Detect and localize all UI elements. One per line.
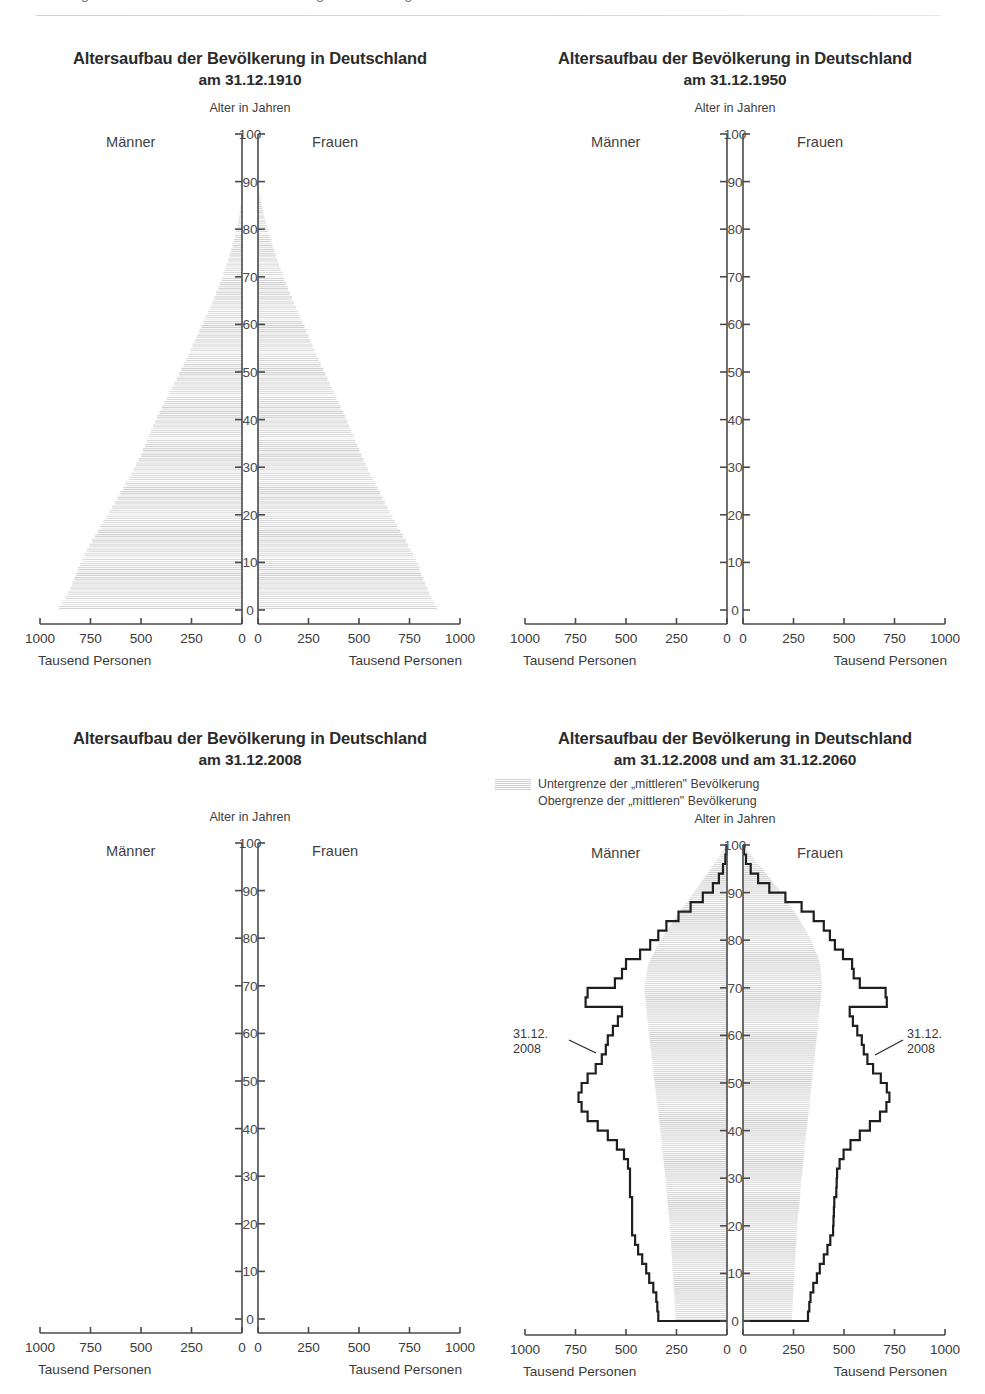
svg-text:70: 70 [242, 979, 258, 994]
chart-subtitle-1950: am 31.12.1950 [495, 70, 975, 90]
svg-text:80: 80 [242, 222, 258, 237]
label-women-2008: Frauen [312, 843, 358, 859]
label-women-2008-2060: Frauen [797, 845, 843, 861]
svg-text:10: 10 [727, 555, 743, 570]
svg-text:500: 500 [130, 1340, 153, 1355]
annotation-right-line1: 31.12. [907, 1027, 967, 1042]
chart-subtitle-2008: am 31.12.2008 [10, 750, 490, 770]
legend-label-obergrenze: Obergrenze der „mittleren" Bevölkerung [538, 793, 757, 810]
svg-text:90: 90 [242, 175, 258, 190]
svg-text:30: 30 [242, 1169, 258, 1184]
svg-text:750: 750 [79, 1340, 102, 1355]
age-axis-title-1950: Alter in Jahren [495, 100, 975, 116]
svg-text:30: 30 [242, 460, 258, 475]
svg-text:0: 0 [238, 1340, 246, 1355]
svg-text:0: 0 [731, 1314, 739, 1329]
svg-text:80: 80 [727, 933, 743, 948]
svg-text:10: 10 [242, 1264, 258, 1279]
svg-text:40: 40 [727, 413, 743, 428]
svg-text:10: 10 [242, 555, 258, 570]
pyramid-svg-1910: 0102030405060708090100100075050025000250… [10, 116, 490, 676]
svg-text:60: 60 [242, 1026, 258, 1041]
pyramid-svg-2008-2060: 0102030405060708090100100075050025000250… [495, 827, 975, 1387]
svg-text:70: 70 [727, 270, 743, 285]
chart-subtitle-1910: am 31.12.1910 [10, 70, 490, 90]
svg-text:1000: 1000 [25, 631, 56, 646]
chart-title-1950: Altersaufbau der Bevölkerung in Deutschl… [495, 48, 975, 69]
svg-text:Tausend Personen: Tausend Personen [349, 653, 462, 668]
svg-text:1000: 1000 [445, 1340, 476, 1355]
svg-text:0: 0 [731, 603, 739, 618]
running-header: Demografischer Wandel und Bevölkerungsen… [0, 0, 985, 26]
svg-text:1000: 1000 [25, 1340, 56, 1355]
svg-text:Tausend Personen: Tausend Personen [38, 1362, 151, 1377]
svg-text:100: 100 [239, 836, 262, 851]
chart-subtitle-2008-2060: am 31.12.2008 und am 31.12.2060 [495, 750, 975, 770]
svg-text:Tausend Personen: Tausend Personen [349, 1362, 462, 1377]
label-men-2008-2060: Männer [591, 845, 640, 861]
page-root: Demografischer Wandel und Bevölkerungsen… [0, 0, 985, 1394]
label-men-1910: Männer [106, 134, 155, 150]
label-men-2008: Männer [106, 843, 155, 859]
svg-text:0: 0 [723, 1342, 731, 1357]
svg-text:750: 750 [564, 1342, 587, 1357]
svg-text:1000: 1000 [930, 1342, 961, 1357]
svg-text:Tausend Personen: Tausend Personen [38, 653, 151, 668]
chart-panel-2008-2060: Altersaufbau der Bevölkerung in Deutschl… [495, 728, 975, 1387]
svg-text:500: 500 [130, 631, 153, 646]
svg-text:20: 20 [242, 1217, 258, 1232]
plot-area-1950: Männer Frauen 01020304050607080901001000… [495, 116, 975, 676]
label-women-1950: Frauen [797, 134, 843, 150]
svg-text:0: 0 [246, 603, 254, 618]
svg-text:750: 750 [79, 631, 102, 646]
svg-text:250: 250 [297, 1340, 320, 1355]
svg-text:750: 750 [883, 631, 906, 646]
plot-area-2008-2060: Männer Frauen 31.12. 2008 31.12. 2008 01… [495, 827, 975, 1387]
svg-text:20: 20 [727, 508, 743, 523]
svg-text:750: 750 [564, 631, 587, 646]
svg-text:50: 50 [242, 365, 258, 380]
chart-title-2008-2060: Altersaufbau der Bevölkerung in Deutschl… [495, 728, 975, 749]
svg-text:0: 0 [254, 1340, 262, 1355]
svg-text:500: 500 [833, 631, 856, 646]
header-divider [36, 15, 941, 16]
svg-text:70: 70 [242, 270, 258, 285]
svg-text:90: 90 [727, 175, 743, 190]
svg-text:30: 30 [727, 1171, 743, 1186]
age-axis-title-2008-2060: Alter in Jahren [495, 811, 975, 827]
label-women-1910: Frauen [312, 134, 358, 150]
label-men-1950: Männer [591, 134, 640, 150]
svg-text:250: 250 [782, 631, 805, 646]
svg-text:60: 60 [242, 317, 258, 332]
svg-text:750: 750 [398, 631, 421, 646]
svg-text:90: 90 [727, 886, 743, 901]
svg-text:100: 100 [239, 127, 262, 142]
plot-area-1910: Männer Frauen 01020304050607080901001000… [10, 116, 490, 676]
svg-text:Tausend Personen: Tausend Personen [523, 1364, 636, 1379]
annotation-left-line1: 31.12. [513, 1027, 573, 1042]
svg-text:250: 250 [782, 1342, 805, 1357]
running-header-text: Demografischer Wandel und Bevölkerungsen… [40, 0, 413, 2]
svg-text:1000: 1000 [510, 631, 541, 646]
svg-text:500: 500 [833, 1342, 856, 1357]
svg-text:250: 250 [665, 1342, 688, 1357]
chart-panel-1950: Altersaufbau der Bevölkerung in Deutschl… [495, 48, 975, 676]
age-axis-title-1910: Alter in Jahren [10, 100, 490, 116]
svg-text:750: 750 [398, 1340, 421, 1355]
svg-text:500: 500 [615, 1342, 638, 1357]
svg-text:10: 10 [727, 1266, 743, 1281]
legend-label-untergrenze: Untergrenze der „mittleren" Bevölkerung [538, 776, 759, 793]
annotation-left-line2: 2008 [513, 1042, 573, 1057]
svg-text:750: 750 [883, 1342, 906, 1357]
plot-area-2008: Männer Frauen 01020304050607080901001000… [10, 825, 490, 1385]
chart-legend: Untergrenze der „mittleren" Bevölkerung … [495, 776, 975, 810]
chart-panel-2008: Altersaufbau der Bevölkerung in Deutschl… [10, 728, 490, 1385]
svg-text:0: 0 [254, 631, 262, 646]
svg-text:1000: 1000 [510, 1342, 541, 1357]
svg-text:0: 0 [238, 631, 246, 646]
legend-item-untergrenze: Untergrenze der „mittleren" Bevölkerung [495, 776, 975, 793]
svg-text:250: 250 [665, 631, 688, 646]
svg-text:1000: 1000 [445, 631, 476, 646]
svg-text:100: 100 [724, 127, 747, 142]
svg-text:0: 0 [739, 631, 747, 646]
